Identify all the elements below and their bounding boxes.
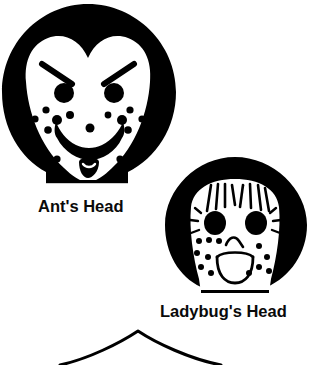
third-head-illustration-cropped: [58, 325, 223, 365]
ants-head-illustration: [0, 0, 180, 190]
ladybugs-head-chin-line: [201, 290, 269, 293]
ants-head-chin-line: [46, 180, 128, 183]
caption-ladybugs-head: Ladybug's Head: [160, 303, 287, 320]
ladybugs-head-illustration: [163, 153, 311, 298]
caption-ants-head: Ant's Head: [38, 198, 124, 215]
